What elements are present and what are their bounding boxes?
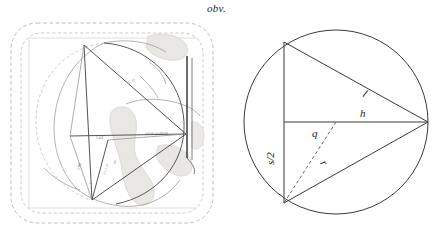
tablet-drawing-svg: 5· 33 šaš-lak.gu-am-ru 5·4 8 2 sag 3 1·1… bbox=[8, 18, 230, 233]
upper-diagonal-l bbox=[284, 42, 428, 122]
annotation-s33: 5· 33 bbox=[127, 78, 135, 85]
label-r: r bbox=[318, 158, 331, 169]
label-h: h bbox=[360, 107, 366, 119]
figure-container: obv. bbox=[0, 0, 433, 235]
reconstructed-circle-arc bbox=[36, 43, 104, 200]
annotation-548: 5·4 8 bbox=[96, 136, 103, 140]
annotation-sag-lak: šaš-lak.gu-am-ru bbox=[145, 131, 168, 136]
label-l: l bbox=[361, 87, 369, 99]
lower-diagonal-l bbox=[284, 122, 428, 203]
label-s-half: s/2 bbox=[264, 152, 276, 165]
figure-caption: obv. bbox=[0, 2, 433, 14]
construction-svg: l h q r s/2 bbox=[236, 20, 433, 225]
label-q: q bbox=[312, 127, 318, 139]
annotation-1-prime: 1′ bbox=[89, 181, 93, 184]
annotation-2-sag: 2 sag bbox=[77, 163, 81, 170]
damage-regions bbox=[110, 34, 204, 205]
tablet-hand-copy-panel: 5· 33 šaš-lak.gu-am-ru 5·4 8 2 sag 3 1·1… bbox=[8, 18, 230, 233]
annotation-nu: nu bbox=[112, 160, 117, 165]
geometric-construction-panel: l h q r s/2 bbox=[236, 20, 428, 225]
